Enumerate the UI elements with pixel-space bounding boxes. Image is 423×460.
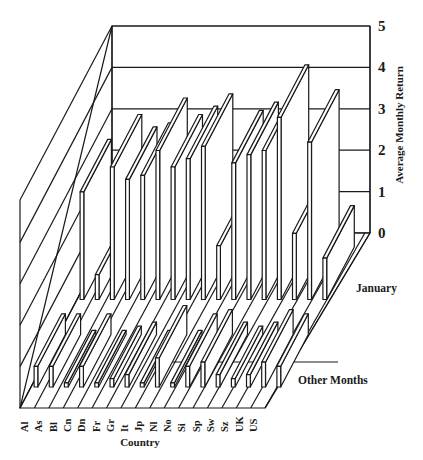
x-tick-Sz: Sz bbox=[219, 421, 230, 432]
jan-bar-Jp-front bbox=[202, 146, 206, 299]
jan-bar-UK-front bbox=[308, 142, 312, 299]
x-tick-Jp: Jp bbox=[133, 421, 144, 432]
other-bar-Nl-front bbox=[171, 383, 175, 387]
jan-bar-Bl-front bbox=[110, 167, 114, 300]
other-bar-UK-front bbox=[262, 362, 266, 387]
other-bar-Sw-front bbox=[231, 379, 235, 387]
other-bar-Gr-front bbox=[125, 375, 129, 387]
x-tick-US: US bbox=[248, 418, 259, 432]
other-bar-US-front bbox=[277, 366, 281, 387]
x-axis-category-labels: AlAsBlCnDnFrGrItJpNlNoSiSpSwSzUKUS bbox=[19, 415, 259, 432]
y-axis-ticks: 012345 bbox=[378, 18, 386, 241]
other-bar-Bl-front bbox=[64, 383, 68, 387]
jan-bar-Gr-front bbox=[171, 167, 175, 300]
x-tick-Sw: Sw bbox=[205, 418, 216, 432]
x-tick-It: It bbox=[119, 424, 130, 432]
other-bar-Sp-front bbox=[216, 375, 220, 387]
x-tick-Sp: Sp bbox=[191, 420, 202, 432]
x-tick-Cn: Cn bbox=[62, 418, 73, 432]
other-bar-Jp-front bbox=[156, 358, 160, 387]
jan-bar-Cn-front bbox=[126, 179, 130, 299]
jan-bar-Fr-front bbox=[156, 151, 160, 300]
y-tick-4: 4 bbox=[378, 59, 386, 75]
y-tick-3: 3 bbox=[378, 101, 386, 117]
jan-bar-It-front bbox=[186, 159, 190, 300]
y-axis-title: Average Monthly Return bbox=[393, 66, 405, 184]
y-tick-5: 5 bbox=[378, 18, 386, 34]
other-bar-Sz-front bbox=[247, 375, 251, 387]
jan-bar-No-front bbox=[232, 163, 236, 300]
3d-bar-chart: 012345 AlAsBlCnDnFrGrItJpNlNoSiSpSwSzUKU… bbox=[0, 0, 423, 460]
y-tick-2: 2 bbox=[378, 142, 386, 158]
other-bar-No-front bbox=[186, 366, 190, 387]
other-bar-It-front bbox=[140, 383, 144, 387]
other-bar-Fr-front bbox=[110, 379, 114, 387]
x-tick-Gr: Gr bbox=[105, 419, 116, 432]
other-bar-Al-front bbox=[34, 366, 38, 387]
row-label-other-months: Other Months bbox=[298, 374, 368, 386]
row-label-january: January bbox=[356, 282, 397, 295]
x-tick-Si: Si bbox=[176, 423, 187, 432]
other-bar-Dn-front bbox=[95, 383, 99, 387]
x-tick-As: As bbox=[33, 420, 44, 432]
jan-bar-Sp-front bbox=[262, 151, 266, 300]
other-bar-As-front bbox=[49, 366, 53, 387]
x-tick-UK: UK bbox=[234, 415, 245, 432]
jan-bar-US-front bbox=[323, 258, 327, 299]
jan-bar-Nl-front bbox=[217, 246, 221, 300]
x-tick-Al: Al bbox=[19, 421, 30, 432]
x-tick-Fr: Fr bbox=[91, 421, 102, 432]
x-tick-Nl: Nl bbox=[148, 421, 159, 432]
jan-bar-Dn-front bbox=[141, 175, 145, 299]
jan-bar-Sz-front bbox=[293, 233, 297, 299]
jan-bar-Al-front bbox=[80, 192, 84, 300]
jan-bar-Sw-front bbox=[277, 117, 281, 299]
y-tick-1: 1 bbox=[378, 184, 386, 200]
other-bar-Cn-front bbox=[80, 366, 84, 387]
x-tick-Dn: Dn bbox=[76, 418, 87, 432]
other-bar-Si-front bbox=[201, 362, 205, 387]
jan-bar-As-front bbox=[95, 275, 99, 300]
jan-bar-Si-front bbox=[247, 155, 251, 300]
y-tick-0: 0 bbox=[378, 225, 386, 241]
x-tick-Bl: Bl bbox=[48, 422, 59, 432]
x-axis-title: Country bbox=[120, 436, 160, 448]
x-tick-No: No bbox=[162, 419, 173, 432]
